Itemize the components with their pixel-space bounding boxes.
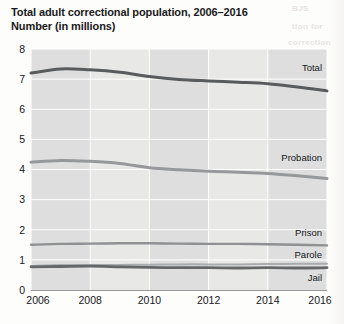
y-tick-label: 1 xyxy=(19,254,25,266)
x-tick-label: 2006 xyxy=(26,294,50,306)
series-label-prison: Prison xyxy=(295,227,322,238)
x-tick-label: 2012 xyxy=(197,294,221,306)
y-tick-label: 2 xyxy=(19,224,25,236)
x-axis-tick-labels: 200620082010201220142016 xyxy=(26,294,332,306)
x-tick-label: 2010 xyxy=(138,294,162,306)
x-tick-label: 2016 xyxy=(308,294,332,306)
y-tick-label: 4 xyxy=(19,163,25,175)
x-tick-label: 2008 xyxy=(79,294,103,306)
series-label-jail: Jail xyxy=(308,272,322,283)
y-tick-label: 3 xyxy=(19,193,25,205)
y-tick-label: 5 xyxy=(19,133,25,145)
x-tick-label: 2014 xyxy=(256,294,280,306)
y-tick-label: 7 xyxy=(19,73,25,85)
series-label-parole: Parole xyxy=(295,249,322,260)
y-tick-label: 0 xyxy=(19,284,25,296)
y-tick-label: 6 xyxy=(19,103,25,115)
chart-canvas: 012345678 200620082010201220142016 Total… xyxy=(0,0,344,324)
series-label-total: Total xyxy=(302,62,322,73)
chart-figure: Total adult correctional population, 200… xyxy=(0,0,344,324)
y-axis-tick-labels: 012345678 xyxy=(19,43,25,296)
series-label-probation: Probation xyxy=(281,152,322,163)
y-tick-label: 8 xyxy=(19,43,25,55)
